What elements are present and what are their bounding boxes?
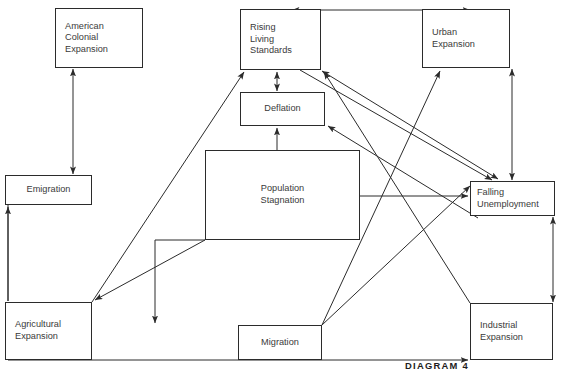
node-population-stagnation[interactable]: Population Stagnation [205,150,360,240]
edge-population-stagnation-agricultural-expansion [95,240,205,300]
node-rising-living-standards[interactable]: Rising Living Standards [240,9,321,70]
node-deflation[interactable]: Deflation [240,92,325,126]
node-label: Agricultural Expansion [6,319,61,342]
node-migration[interactable]: Migration [238,325,322,360]
node-label: Falling Unemployment [471,187,539,210]
node-label: American Colonial Expansion [56,21,108,56]
node-label: Emigration [27,184,71,196]
node-label: Industrial Expansion [471,320,523,343]
node-agricultural-expansion[interactable]: Agricultural Expansion [5,302,92,360]
node-american-colonial-expansion[interactable]: American Colonial Expansion [55,8,143,68]
node-label: Deflation [264,103,300,115]
diagram-canvas: American Colonial Expansion Rising Livin… [0,0,561,378]
node-urban-expansion[interactable]: Urban Expansion [422,9,510,68]
node-industrial-expansion[interactable]: Industrial Expansion [470,303,553,360]
node-label: Urban Expansion [423,27,475,50]
node-label: Population Stagnation [261,183,305,206]
edge-population-stagnation-migration [155,240,205,323]
node-falling-unemployment[interactable]: Falling Unemployment [470,181,555,216]
diagram-caption: DIAGRAM 4 [405,360,469,371]
node-emigration[interactable]: Emigration [5,175,92,205]
node-label: Rising Living Standards [241,22,292,57]
node-label: Migration [261,337,299,349]
